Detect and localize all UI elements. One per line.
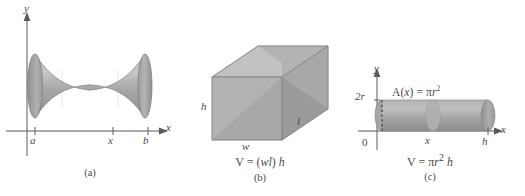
panel-c: y x 2r 0 x h A(x) = πr2 V = πr2 h (c) [340, 0, 525, 196]
panel-b-height-label: h [201, 100, 207, 112]
panel-b-volume-formula: V = (wl) h [205, 155, 315, 170]
panel-c-area-mid: ) = π [410, 86, 432, 98]
panel-c-area-exponent: 2 [437, 84, 441, 93]
panel-b-width-label: w [242, 140, 249, 152]
panel-c-x-axis-label: x [501, 123, 506, 135]
panel-c-cylinder [375, 100, 495, 131]
panel-b-formula-close: ) [272, 155, 279, 169]
panel-c-volume-formula: V = πr2 h [370, 152, 490, 170]
panel-a-tick-label-a: a [30, 134, 36, 146]
panel-b-formula-lead: V = ( [235, 155, 260, 169]
panel-c-origin-label: 0 [362, 136, 368, 148]
panel-c-caption: (c) [410, 171, 450, 182]
panel-a-tick-label-b: b [143, 134, 149, 146]
panel-c-y-axis-label: y [374, 62, 379, 74]
panel-b-length-label: l [297, 115, 300, 127]
panel-c-formula-h: h [447, 155, 453, 169]
panel-b: h w l V = (wl) h (b) [180, 0, 340, 196]
panel-a-tick-label-x: x [108, 134, 113, 146]
panel-c-cross-section-x-label: x [425, 134, 430, 146]
panel-c-diameter-label: 2r [355, 90, 365, 102]
panel-b-formula-h: h [279, 155, 285, 169]
panel-c-formula-lead: V = π [407, 155, 434, 169]
panel-c-height-label: h [482, 135, 488, 147]
panel-a-solid [28, 54, 153, 118]
panel-c-area-lead: A( [392, 86, 404, 98]
panel-a-y-axis-label: y [24, 2, 29, 14]
panel-b-box [212, 46, 328, 140]
panel-c-formula-exponent: 2 [439, 152, 444, 163]
panel-a-caption: (a) [70, 167, 110, 178]
panel-a-x-axis-label: x [166, 121, 171, 133]
panel-c-area-label: A(x) = πr2 [392, 86, 440, 98]
panel-a: y x a x b (a) [0, 0, 180, 196]
panel-b-caption: (b) [240, 172, 280, 183]
